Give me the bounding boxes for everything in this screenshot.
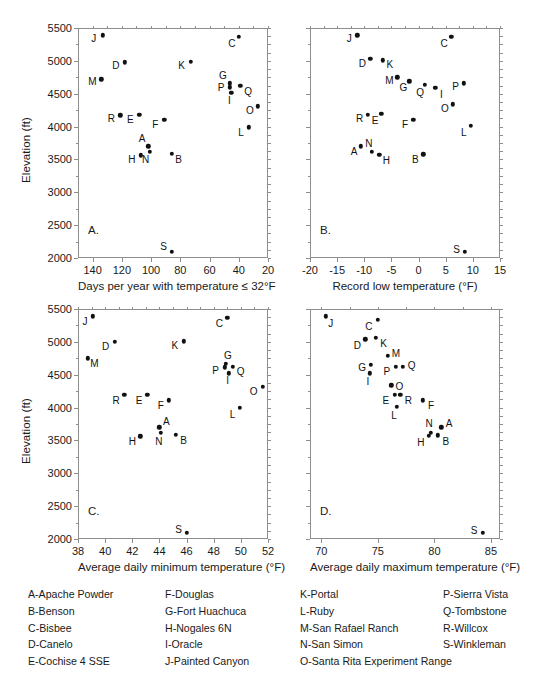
y-right-minor-tick [268,118,271,119]
data-point-label: H [383,156,390,166]
data-point-label: A [163,417,170,427]
legend-item: A-Apache Powder [28,586,113,603]
y-right-minor-tick [500,44,503,45]
x-tick-label: 85 [485,545,497,557]
x-top-minor-tick [187,307,188,310]
y-right-minor-tick [500,342,503,343]
y-right-minor-tick [500,184,503,185]
legend-item: O-Santa Rita Experiment Range [300,653,452,670]
x-tick [268,258,269,262]
y-minor-tick [76,457,79,458]
data-point-label: D [102,342,109,352]
y-tick [74,127,78,128]
y-tick-label: 2500 [32,219,72,231]
data-point-label: J [328,319,333,329]
data-point-label: I [440,90,443,100]
y-axis-label: Elevation (ft) [20,117,32,183]
legend-item: R-Willcox [443,620,508,637]
y-minor-tick [76,110,79,111]
y-minor-tick [76,143,79,144]
y-minor-tick [76,44,79,45]
x-axis-label: Average daily maximum temperature (°F) [310,561,500,573]
x-tick [105,539,106,543]
x-top-minor-tick [151,26,152,29]
x-tick-label: -10 [356,264,372,276]
data-point-label: H [417,438,424,448]
y-minor-tick [308,457,311,458]
y-tick-label: 4500 [32,369,72,381]
legend-item: H-Nogales 6N [165,620,249,637]
y-right-minor-tick [268,250,271,251]
y-right-minor-tick [268,473,271,474]
y-tick-label: 5000 [32,336,72,348]
data-point-label: H [129,437,136,447]
y-tick [74,94,78,95]
legend-item: M-San Rafael Ranch [300,620,452,637]
y-right-minor-tick [500,86,503,87]
data-point-label: L [230,410,236,420]
y-minor-tick [308,209,311,210]
y-tick-label: 4000 [32,402,72,414]
data-point-label: N [142,155,149,165]
y-right-minor-tick [268,28,271,29]
y-tick [74,408,78,409]
x-tick-label: 80 [174,264,186,276]
y-right-minor-tick [268,317,271,318]
x-top-minor-tick [253,26,254,29]
x-top-minor-tick [434,307,435,310]
x-top-minor-tick [321,307,322,310]
data-point-label: R [108,114,115,124]
y-right-minor-tick [268,531,271,532]
x-top-minor-tick [500,26,501,29]
data-point-label: O [246,106,254,116]
y-tick [306,506,310,507]
y-right-minor-tick [268,416,271,417]
y-right-minor-tick [268,367,271,368]
y-right-minor-tick [500,225,503,226]
data-point-label: Q [244,87,252,97]
y-right-minor-tick [268,383,271,384]
y-right-minor-tick [268,432,271,433]
y-tick-label: 5000 [32,55,72,67]
y-minor-tick [76,242,79,243]
data-point-label: D [359,59,366,69]
y-right-minor-tick [500,498,503,499]
y-right-minor-tick [268,358,271,359]
x-tick [187,539,188,543]
y-tick [306,408,310,409]
y-minor-tick [308,523,311,524]
y-minor-tick [76,358,79,359]
plot-area-a [78,28,268,258]
data-point-label: G [224,351,232,361]
data-point-label: F [152,120,158,130]
x-top-minor-tick [463,307,464,310]
data-point-label: E [372,116,379,126]
data-point-label: G [358,363,366,373]
y-tick [74,192,78,193]
x-tick [214,539,215,543]
y-right-minor-tick [500,440,503,441]
x-top-minor-tick [432,26,433,29]
x-tick-label: 40 [99,545,111,557]
y-right-minor-tick [268,498,271,499]
x-top-minor-tick [378,307,379,310]
data-point-label: O [396,382,404,392]
data-point-label: A [139,134,146,144]
legend-item: N-San Simon [300,636,452,653]
x-top-minor-tick [224,26,225,29]
data-point-label: K [386,60,393,70]
legend-column-2: F-DouglasG-Fort HuachucaH-Nogales 6NI-Or… [165,586,249,670]
y-tick [74,28,78,29]
plot-area-d [310,309,500,539]
data-point-label: E [136,396,143,406]
y-right-minor-tick [268,36,271,37]
y-right-minor-tick [500,490,503,491]
y-tick [306,440,310,441]
data-point-label: L [238,128,244,138]
data-point-label: L [391,411,397,421]
data-point-label: N [365,139,372,149]
y-right-minor-tick [500,36,503,37]
y-right-minor-tick [268,325,271,326]
x-top-minor-tick [268,307,269,310]
data-point-label: M [392,349,400,359]
